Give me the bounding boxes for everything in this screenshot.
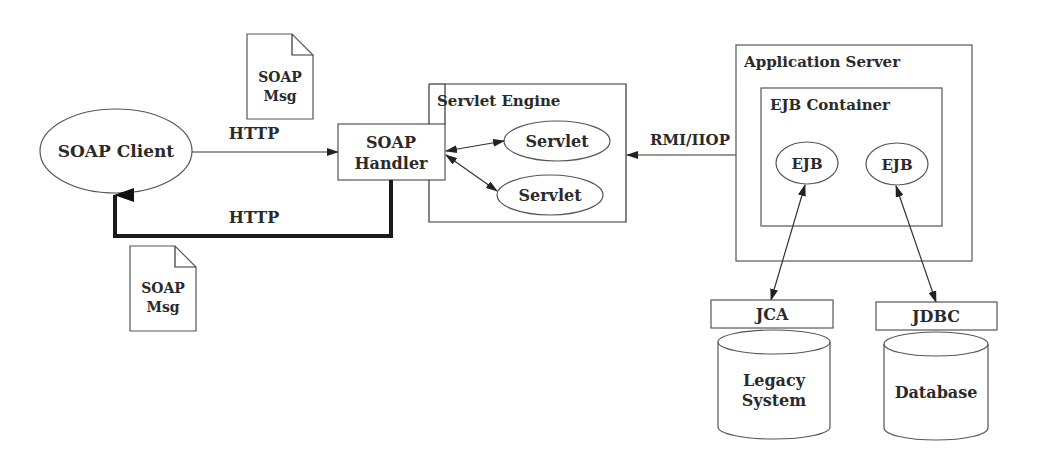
handler-servlet2-edge [446,155,497,191]
soap-msg-document-bottom: SOAP Msg [130,246,196,331]
servlet-2-label: Servlet [518,186,582,205]
soap-handler-line2: Handler [355,154,429,173]
legacy-system-line2: System [742,391,806,410]
http-request-label: HTTP [229,124,279,143]
soap-client-label: SOAP Client [58,141,175,161]
soap-msg-bottom-line1: SOAP [141,280,185,296]
database-label: Database [895,383,978,402]
application-server-container: Application Server EJB Container EJB EJB [736,45,972,261]
http-request-edge: HTTP [192,124,338,152]
jca-label: JCA [754,305,789,324]
jca-connector: JCA [711,300,833,328]
http-response-label: HTTP [229,208,279,227]
servlet-engine-container: Servlet Engine Servlet Servlet [429,84,626,222]
soap-msg-top-line2: Msg [263,88,296,104]
rmi-iiop-label: RMI/IIOP [650,131,730,149]
soap-architecture-diagram: SOAP Msg SOAP Msg SOAP Client HTTP SOAP … [0,0,1044,470]
soap-msg-bottom-line2: Msg [146,299,179,315]
soap-handler-node: SOAP Handler [338,124,445,180]
servlet-engine-title: Servlet Engine [437,92,560,110]
legacy-system-line1: Legacy [743,371,806,390]
ejb-1-label: EJB [791,155,822,173]
soap-msg-document-top: SOAP Msg [247,34,313,119]
soap-client-node: SOAP Client [40,109,192,193]
servlet-1-label: Servlet [525,132,589,151]
ejb-container-title: EJB Container [770,96,891,114]
jdbc-connector: JDBC [876,302,997,330]
application-server-title: Application Server [743,53,901,71]
jdbc-label: JDBC [910,307,960,326]
ejb-2-label: EJB [881,156,912,174]
database-cylinder: Database [884,332,988,440]
legacy-system-cylinder: Legacy System [718,330,830,439]
http-response-edge: HTTP [115,180,391,236]
soap-msg-top-line1: SOAP [258,69,302,85]
handler-servlet1-edge [446,141,504,151]
soap-handler-line1: SOAP [366,133,416,152]
